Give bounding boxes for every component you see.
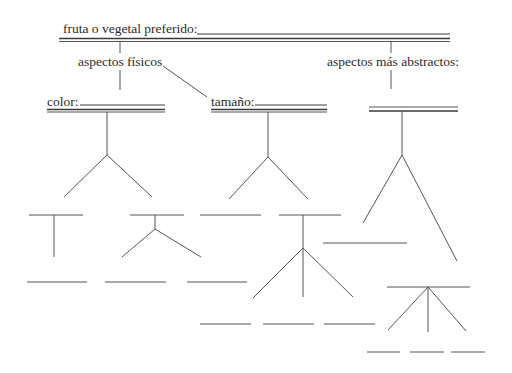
tree-lines (0, 0, 512, 373)
graphic-organizer: fruta o vegetal preferido: aspectos físi… (0, 0, 512, 373)
